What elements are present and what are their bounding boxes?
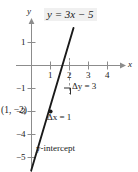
y-tick-label-1: 1	[21, 38, 26, 47]
x-axis	[16, 63, 126, 69]
x-tick-label-3: 3	[86, 71, 91, 80]
x-tick-label-4: 4	[105, 71, 110, 80]
x-tick-label-1: 1	[48, 71, 53, 80]
x-tick-label-2: 2	[67, 71, 72, 80]
y-axis-label: y	[27, 7, 31, 16]
y-tick-label-neg1: −1	[16, 84, 26, 93]
delta-x-label: Δx = 1	[47, 113, 71, 122]
y-axis	[29, 18, 35, 172]
y-tick-label-neg5: −5	[16, 153, 26, 162]
x-axis-label: x	[128, 60, 132, 69]
equation-label: y = 3x − 5	[44, 8, 97, 21]
delta-y-label: Δy = 3	[72, 82, 96, 91]
y-intercept-label: y-intercept	[36, 144, 75, 153]
y-tick-label-neg4: −4	[16, 130, 26, 139]
graph-figure: y = 3x − 5 y x 1 2 3 4 1 −1 −3 −4 −5 (1,…	[0, 0, 138, 172]
point-coordinate-label: (1, −2)	[1, 106, 27, 116]
